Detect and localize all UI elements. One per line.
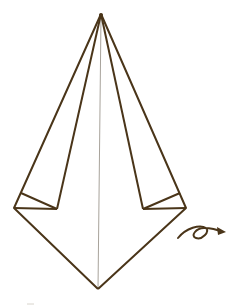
left-flap-base — [14, 208, 57, 209]
fold-diagram-svg — [0, 0, 236, 305]
apex-point — [99, 13, 103, 17]
left-outer-edge — [14, 14, 101, 289]
left-flap-diagonal — [21, 193, 57, 209]
left-inner-flap-edge — [57, 14, 101, 209]
turn-over-arrow-icon — [178, 226, 226, 238]
right-outer-edge — [98, 14, 186, 289]
right-flap-base — [143, 208, 186, 209]
center-crease-line — [98, 16, 101, 289]
right-flap-diagonal — [143, 193, 180, 209]
right-inner-flap-edge — [101, 14, 143, 209]
origami-diagram: Kite-shaped folded paper with two side f… — [0, 0, 236, 305]
